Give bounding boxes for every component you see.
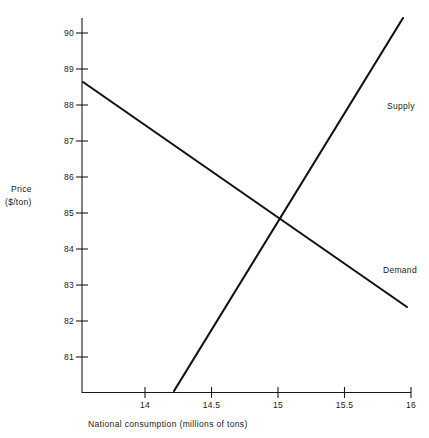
demand-curve (83, 82, 407, 307)
y-axis-title-line1: Price (11, 183, 32, 195)
y-tick-label-82: 82 (52, 317, 74, 326)
x-tick-label-15: 15 (258, 401, 298, 410)
y-axis-title-line2: ($/ton) (5, 196, 32, 208)
x-tick-label-15-5: 15.5 (325, 401, 365, 410)
demand-curve-label: Demand (383, 265, 417, 275)
y-tick-label-85: 85 (52, 209, 74, 218)
x-axis-title: National consumption (millions of tons) (88, 419, 248, 429)
y-tick-label-83: 83 (52, 281, 74, 290)
supply-curve-label: Supply (387, 101, 415, 111)
y-tick-label-81: 81 (52, 353, 74, 362)
x-tick-label-16: 16 (391, 401, 429, 410)
x-tick-label-14-5: 14.5 (192, 401, 232, 410)
supply-curve (174, 18, 403, 391)
y-tick-label-86: 86 (52, 173, 74, 182)
supply-demand-chart: 90 89 88 87 86 85 84 83 82 81 14 14.5 15… (0, 0, 429, 438)
x-tick-label-14: 14 (125, 401, 165, 410)
y-tick-label-84: 84 (52, 245, 74, 254)
y-tick-label-87: 87 (52, 137, 74, 146)
y-tick-label-88: 88 (52, 101, 74, 110)
y-tick-label-89: 89 (52, 65, 74, 74)
y-tick-label-90: 90 (52, 29, 74, 38)
